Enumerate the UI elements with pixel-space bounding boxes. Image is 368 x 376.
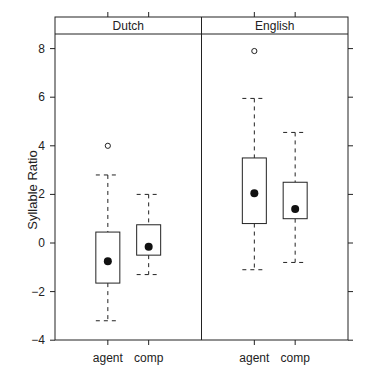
strip-label: English (255, 19, 294, 33)
panel-english: Englishagentcomp (202, 12, 349, 365)
outlier-point (105, 143, 110, 148)
x-tick-label: comp (280, 351, 310, 365)
panels: DutchagentcompEnglishagentcomp (55, 12, 348, 365)
boxplot-chart: −4−202468 DutchagentcompEnglishagentcomp… (0, 0, 368, 376)
iqr-box (283, 182, 307, 218)
box-agent: agent (93, 12, 124, 365)
strip-label: Dutch (113, 19, 144, 33)
x-tick-label: agent (239, 351, 270, 365)
y-tick-label: −2 (31, 285, 45, 299)
y-tick-label: 0 (38, 236, 45, 250)
y-tick-label: 8 (38, 42, 45, 56)
x-tick-label: comp (134, 351, 164, 365)
y-axis-label: Syllable Ratio (25, 150, 40, 230)
box-comp: comp (280, 12, 310, 365)
box-comp: comp (134, 12, 164, 365)
box-agent: agent (239, 12, 270, 365)
y-tick-label: 6 (38, 90, 45, 104)
x-tick-label: agent (93, 351, 124, 365)
median-dot (250, 189, 258, 197)
median-dot (145, 243, 153, 251)
panel-dutch: Dutchagentcomp (55, 12, 202, 365)
median-dot (291, 205, 299, 213)
y-tick-label: −4 (31, 333, 45, 347)
outlier-point (252, 48, 257, 53)
median-dot (104, 257, 112, 265)
